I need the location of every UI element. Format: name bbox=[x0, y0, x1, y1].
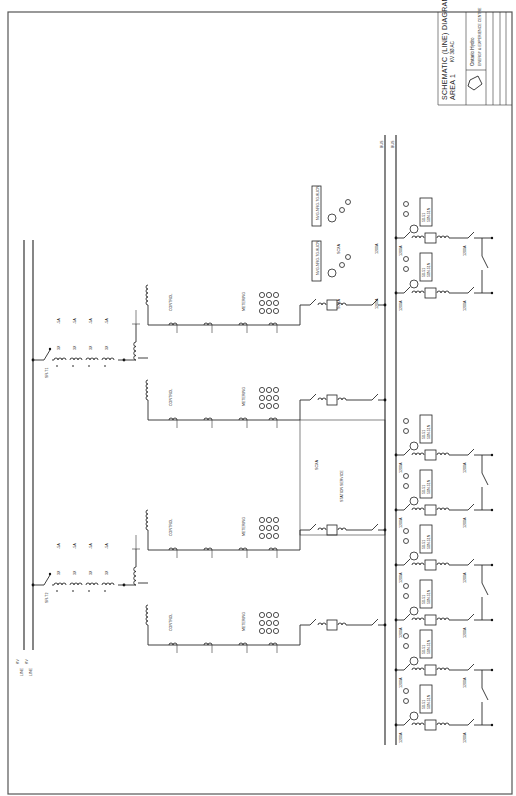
bus-label-2: BUS bbox=[391, 140, 395, 148]
circuit-breaker-icon bbox=[327, 300, 337, 310]
current-transformer-icon bbox=[70, 358, 82, 360]
line-disconnect-icon bbox=[468, 449, 474, 455]
ct-label: 3X bbox=[73, 570, 77, 575]
upper-feeder-tag-2: NVG-NRG-7G-8LICNSCXA1200A bbox=[312, 240, 379, 309]
feeder-ct-icon bbox=[412, 508, 424, 510]
meter-icon bbox=[404, 634, 409, 639]
tie-switch-2 bbox=[482, 455, 488, 510]
line-disconnect-icon bbox=[468, 232, 474, 238]
feeder-ct-icon bbox=[437, 563, 449, 565]
feeder-terminal-icon bbox=[491, 237, 493, 239]
title-area: AREA 1 bbox=[449, 74, 456, 100]
relay-label: 50N-51N bbox=[427, 534, 431, 549]
bus-rating: 1200A bbox=[399, 677, 403, 688]
breaker-disconnect-icon bbox=[310, 299, 316, 305]
metering-label: METERING bbox=[242, 292, 246, 311]
control-label: CONTROL bbox=[169, 388, 173, 406]
upper-feeder-tag-1: NVG-NRG-7G-8LICNSCXA1200A bbox=[312, 185, 379, 254]
line1-kv-label: KV bbox=[16, 659, 20, 664]
company-name: Ontario Hydro bbox=[470, 37, 475, 66]
meter-icon bbox=[273, 628, 278, 633]
current-transformer-icon bbox=[54, 358, 66, 360]
circuit-breaker-icon bbox=[327, 395, 337, 405]
bus-rating: 1200A bbox=[399, 572, 403, 583]
feeder-ct-icon bbox=[412, 668, 424, 670]
bus-label-1: BUS bbox=[380, 140, 384, 148]
meter-icon bbox=[404, 584, 409, 589]
meter-icon bbox=[273, 533, 278, 538]
synchro-meter-icon bbox=[328, 269, 336, 277]
breaker-ct-icon bbox=[318, 303, 326, 305]
meter-icon bbox=[259, 403, 264, 408]
breaker-rating: 1200A bbox=[375, 298, 379, 309]
circuit-breaker-icon bbox=[327, 525, 337, 535]
drawing-frame bbox=[8, 12, 512, 794]
feeder-breaker-icon bbox=[425, 505, 436, 515]
relay-label: 50-51 bbox=[422, 213, 426, 222]
bus-rating: 1200A bbox=[399, 517, 403, 528]
meter-icon bbox=[266, 612, 271, 617]
title-block: SCHEMATIC (LINE) DIAGRAM KV 3Ø AC AREA 1… bbox=[438, 0, 512, 105]
meter-icon bbox=[266, 620, 271, 625]
transformer-id: SR-T2 bbox=[45, 593, 49, 603]
secondary-winding-icon bbox=[146, 605, 148, 625]
ct-label: 3X bbox=[57, 570, 61, 575]
meter-icon bbox=[259, 525, 264, 530]
meter-icon bbox=[404, 419, 409, 424]
meter-icon bbox=[266, 403, 271, 408]
meter-icon bbox=[266, 628, 271, 633]
relay-label: 50-51 bbox=[422, 595, 426, 604]
bus-rating: 1200A bbox=[399, 732, 403, 743]
feeder-rating: 1200A bbox=[463, 627, 467, 638]
feeder-rating: 1200A bbox=[463, 677, 467, 688]
tie-switch-icon bbox=[482, 688, 488, 700]
meter-icon bbox=[259, 308, 264, 313]
relay-label: 50N-51N bbox=[427, 262, 431, 277]
breaker-tag: SCXA bbox=[337, 299, 341, 309]
line-disconnect-icon bbox=[468, 504, 474, 510]
meter-icon bbox=[266, 517, 271, 522]
ct-ratio-label: -5A bbox=[89, 543, 93, 549]
company-subtitle: ENERGY & EXPERIENCE CENTRE bbox=[478, 7, 482, 66]
feeder-ct-icon bbox=[412, 291, 424, 293]
secondary-winding-icon bbox=[146, 510, 148, 530]
station-service: STATION SERVICE SCXA bbox=[300, 420, 385, 535]
meter-icon bbox=[404, 257, 409, 262]
meter-icon bbox=[404, 429, 409, 434]
main-buses: BUS BUS bbox=[380, 135, 396, 745]
meter-icon bbox=[346, 200, 351, 205]
ct-ratio-label: -5A bbox=[73, 318, 77, 324]
feeder-ct-icon bbox=[437, 508, 449, 510]
feeder-breaker-icon bbox=[425, 233, 436, 243]
ct-label: 3X bbox=[105, 345, 109, 350]
feeder-breaker-icon bbox=[425, 450, 436, 460]
feeder-rating: 1200A bbox=[463, 572, 467, 583]
company-logo-icon bbox=[468, 76, 482, 90]
feeder-terminal-icon bbox=[491, 669, 493, 671]
feeder-ct-icon bbox=[437, 453, 449, 455]
relay-label: 50N-51N bbox=[427, 589, 431, 604]
breaker-disconnect-icon bbox=[310, 394, 316, 400]
relay-label: 50N-51N bbox=[427, 479, 431, 494]
feeder-6: 1200A1200A50-5150N-51N bbox=[395, 580, 494, 638]
line-disconnect-icon bbox=[468, 664, 474, 670]
feeder-tag-suffix: ICN bbox=[316, 240, 320, 247]
tie-switch-icon bbox=[482, 473, 488, 485]
bus-tap-dot bbox=[384, 304, 387, 307]
breaker-ct-icon bbox=[318, 398, 326, 400]
ct-ratio-label: -5A bbox=[105, 543, 109, 549]
meter-icon bbox=[266, 387, 271, 392]
feeder-terminal-icon bbox=[491, 292, 493, 294]
feeder-tag: NVG-NRG-7G-8L bbox=[316, 247, 320, 275]
station-service-tag: SCXA bbox=[315, 460, 319, 470]
bus-disconnect-icon bbox=[404, 287, 410, 293]
ct-label: 3X bbox=[57, 345, 61, 350]
meter-icon bbox=[273, 403, 278, 408]
meter-icon bbox=[340, 208, 345, 213]
meter-icon bbox=[273, 292, 278, 297]
ct-label: 3X bbox=[89, 570, 93, 575]
tie-switch-1 bbox=[482, 238, 488, 293]
meter-icon bbox=[273, 300, 278, 305]
title-line1: SCHEMATIC (LINE) DIAGRAM bbox=[441, 0, 449, 100]
meter-icon bbox=[404, 484, 409, 489]
